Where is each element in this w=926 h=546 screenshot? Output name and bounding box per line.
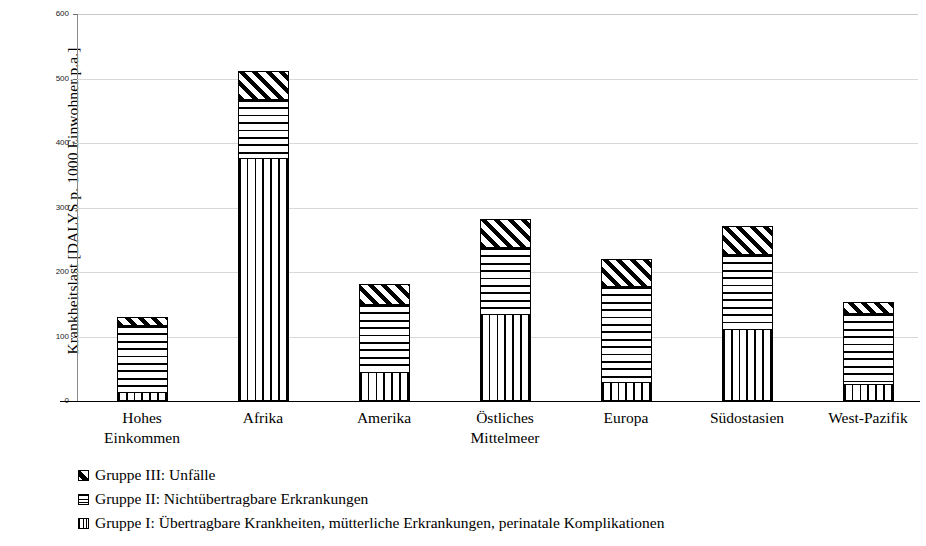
gridline: [77, 143, 918, 144]
bar: [480, 219, 531, 401]
bar-segment-g3: [117, 317, 168, 325]
bar-segment-g2: [238, 100, 289, 159]
y-tick-label: 300: [29, 203, 69, 212]
bar-segment-g1: [359, 373, 410, 401]
bar-segment-g1: [480, 315, 531, 401]
bar: [843, 302, 894, 401]
x-category-label: Südostasien: [677, 408, 817, 428]
legend-label: Gruppe III: Unfälle: [95, 466, 216, 484]
y-tick-label: 200: [29, 267, 69, 276]
x-category-label-line: Amerika: [314, 408, 454, 428]
bar: [238, 71, 289, 401]
legend-item: Gruppe II: Nichtübertragbare Erkrankunge…: [78, 487, 918, 511]
x-category-label-line: West-Pazifik: [798, 408, 926, 428]
legend-label: Gruppe II: Nichtübertragbare Erkrankunge…: [95, 490, 368, 508]
bar-segment-g3: [359, 284, 410, 305]
gridline: [77, 208, 918, 209]
x-category-label-line: Europa: [556, 408, 696, 428]
bar-segment-g2: [480, 248, 531, 315]
plot-top-border: [77, 14, 918, 15]
bar-segment-g1: [722, 330, 773, 401]
y-tick-label: 500: [29, 74, 69, 83]
bar-segment-g2: [843, 314, 894, 385]
bar: [359, 284, 410, 401]
bar-segment-g3: [843, 302, 894, 314]
chart-legend: Gruppe III: UnfälleGruppe II: Nichtübert…: [78, 463, 918, 535]
bar-segment-g1: [238, 159, 289, 401]
x-category-label: ÖstlichesMittelmeer: [435, 408, 575, 448]
legend-swatch-g3-icon: [78, 470, 89, 481]
x-category-label-line: Südostasien: [677, 408, 817, 428]
x-category-label: Europa: [556, 408, 696, 428]
bar-segment-g2: [601, 287, 652, 383]
bar-segment-g3: [601, 259, 652, 287]
bar: [722, 226, 773, 401]
legend-swatch-g1-icon: [78, 518, 89, 529]
y-tick-label: 400: [29, 138, 69, 147]
y-tick-label: 600: [29, 9, 69, 18]
x-category-label-line: Östliches: [435, 408, 575, 428]
bar-segment-g3: [480, 219, 531, 248]
bar-segment-g2: [722, 255, 773, 330]
legend-item: Gruppe I: Übertragbare Krankheiten, mütt…: [78, 511, 918, 535]
x-category-label: West-Pazifik: [798, 408, 926, 428]
y-tick-label: 100: [29, 332, 69, 341]
legend-swatch-g2-icon: [78, 494, 89, 505]
gridline: [77, 79, 918, 80]
x-category-label: HohesEinkommen: [72, 408, 212, 448]
x-category-label-line: Einkommen: [72, 428, 212, 448]
bar-segment-g3: [722, 226, 773, 255]
x-category-label-line: Hohes: [72, 408, 212, 428]
x-category-label-line: Afrika: [193, 408, 333, 428]
bar-segment-g3: [238, 71, 289, 100]
bar: [601, 259, 652, 401]
x-category-label-line: Mittelmeer: [435, 428, 575, 448]
bar: [117, 317, 168, 401]
x-category-label: Amerika: [314, 408, 454, 428]
legend-label: Gruppe I: Übertragbare Krankheiten, mütt…: [95, 514, 664, 532]
bar-segment-g2: [117, 326, 168, 393]
x-category-label: Afrika: [193, 408, 333, 428]
bar-segment-g1: [843, 385, 894, 401]
bar-segment-g1: [117, 393, 168, 401]
bar-segment-g2: [359, 305, 410, 373]
legend-item: Gruppe III: Unfälle: [78, 463, 918, 487]
x-axis-line: [60, 401, 920, 402]
stacked-bar-chart: Krankheitslast [DALYS p. 1000 Einwohner …: [0, 0, 926, 546]
plot-area: [77, 14, 918, 401]
bar-segment-g1: [601, 383, 652, 401]
